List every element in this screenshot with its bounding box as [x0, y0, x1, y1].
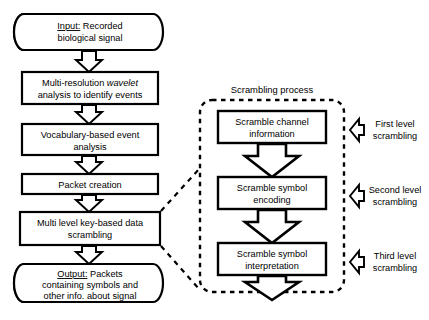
channel-line2: information [249, 129, 294, 139]
input-line2: biological signal [58, 33, 123, 43]
flow-node-wavelet: Multi-resolution wavelet analysis to ide… [22, 72, 158, 104]
scrambling-panel-title: Scrambling process [231, 84, 314, 95]
flow-node-packet: Packet creation [22, 174, 158, 194]
wavelet-italic: wavelet [107, 78, 139, 88]
vocabulary-line2: analysis [73, 142, 107, 152]
level-annotation-second: Second level scrambling [350, 185, 421, 207]
svg-text:Input: Recorded: Input: Recorded [57, 21, 122, 31]
interpretation-line2: interpretation [245, 261, 299, 271]
flow-node-input: Input: Recorded biological signal [14, 14, 163, 50]
arrow-encoding-to-interpretation [245, 210, 299, 243]
output-line3: other info. about signal [44, 291, 137, 301]
interpretation-line1: Scramble symbol [237, 249, 307, 259]
arrow-vocabulary-to-packet [76, 156, 102, 174]
left-arrow-icon-second [350, 185, 364, 207]
svg-text:Output: Packets: Output: Packets [57, 269, 123, 279]
encoding-line1: Scramble symbol [237, 183, 307, 193]
level-annotation-first: First level scrambling [350, 119, 417, 141]
callout-line-bottom [161, 246, 200, 290]
wavelet-line1a: Multi-resolution [42, 78, 107, 88]
vocabulary-line1: Vocabulary-based event [41, 130, 140, 140]
output-line1: Packets [87, 269, 123, 279]
flow-node-vocabulary: Vocabulary-based event analysis [22, 124, 158, 155]
scramble-step-channel: Scramble channel information [218, 111, 326, 143]
arrow-channel-to-encoding [245, 144, 299, 177]
flow-node-scrambling: Multi level key-based data scrambling [20, 212, 160, 245]
third-level-line1: Third level [374, 251, 416, 261]
encoding-line2: encoding [253, 195, 290, 205]
scrambling-line2: scrambling [68, 230, 112, 240]
scrambling-line1: Multi level key-based data [37, 218, 144, 228]
arrow-wavelet-to-vocabulary [76, 105, 102, 124]
output-line2: containing symbols and [42, 280, 138, 290]
scramble-step-encoding: Scramble symbol encoding [218, 177, 326, 209]
output-prefix: Output: [57, 269, 87, 279]
scrambling-process-flowchart: Input: Recorded biological signal Multi-… [0, 0, 429, 320]
wavelet-line2: analysis to identify events [38, 90, 143, 100]
second-level-line2: scrambling [373, 197, 417, 207]
input-prefix: Input: [57, 21, 80, 31]
second-level-line1: Second level [369, 185, 422, 195]
channel-line1: Scramble channel [235, 117, 309, 127]
arrow-input-to-wavelet [76, 51, 102, 72]
arrow-interpretation-out [245, 276, 299, 300]
arrow-packet-to-scrambling [76, 195, 102, 212]
flow-node-output: Output: Packets containing symbols and o… [14, 264, 163, 302]
input-line1: Recorded [80, 21, 122, 31]
level-annotation-third: Third level scrambling [350, 251, 417, 273]
left-arrow-icon-first [350, 119, 364, 141]
first-level-line2: scrambling [373, 131, 417, 141]
packet-line1: Packet creation [58, 180, 121, 190]
first-level-line1: First level [375, 119, 414, 129]
arrow-scrambling-to-output [76, 246, 102, 264]
third-level-line2: scrambling [373, 263, 417, 273]
scramble-step-interpretation: Scramble symbol interpretation [218, 243, 326, 275]
svg-text:Multi-resolution wavelet: Multi-resolution wavelet [42, 78, 138, 88]
left-arrow-icon-third [350, 251, 364, 273]
callout-line-top [161, 168, 200, 211]
